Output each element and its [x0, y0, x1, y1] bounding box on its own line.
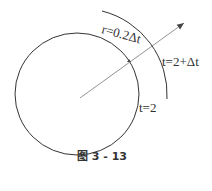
figure-diagram: r=0.2Δt t=2+Δt t=2 图 3 - 13: [0, 0, 212, 191]
outer-time-label: t=2+Δt: [162, 54, 199, 69]
inner-time-label: t=2: [139, 100, 156, 115]
figure-caption: 图 3 - 13: [77, 150, 127, 163]
inner-circle: [15, 33, 139, 155]
radius-label: r=0.2Δt: [100, 21, 143, 46]
